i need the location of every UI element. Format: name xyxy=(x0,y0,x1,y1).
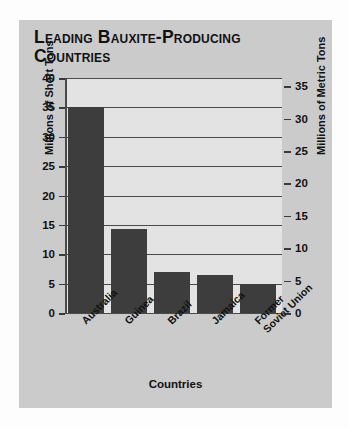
y-axis-right-tick-label: 20 xyxy=(295,177,308,189)
y-axis-right-tick-label: 15 xyxy=(295,210,308,222)
y-axis-right-tick-label: 35 xyxy=(295,80,308,92)
y-axis-right-tick-label: 10 xyxy=(295,242,308,254)
chart-title: Leading Bauxite-Producing Countries xyxy=(34,28,314,66)
y-axis-right-tick-label: 30 xyxy=(295,113,308,125)
y-axis-right-tick xyxy=(284,216,291,218)
y-axis-left-tick xyxy=(59,196,65,198)
y-axis-right-title: Millions of Metric Tons xyxy=(315,37,327,155)
y-axis-left-tick xyxy=(59,313,65,315)
chart-figure: Leading Bauxite-Producing Countries 0510… xyxy=(19,20,332,408)
y-axis-left-tick xyxy=(59,225,65,227)
x-axis-title: Countries xyxy=(19,378,332,390)
y-axis-right-tick xyxy=(284,151,291,153)
y-axis-left-tick xyxy=(59,254,65,256)
y-axis-right-tick xyxy=(284,248,291,250)
y-axis-left-tick xyxy=(59,284,65,286)
bar xyxy=(68,107,104,313)
y-axis-left-tick-label: 10 xyxy=(42,248,55,260)
y-axis-left-tick xyxy=(59,107,65,109)
y-axis-left-title: Millions of Short Tons xyxy=(43,40,55,155)
y-axis-left-tick-label: 25 xyxy=(42,160,55,172)
y-axis-left-tick-label: 0 xyxy=(49,307,55,319)
plot-area: 0510152025303540 05101520253035 Australi… xyxy=(66,78,282,313)
y-axis-left-tick-label: 20 xyxy=(42,190,55,202)
y-axis-left-tick-label: 5 xyxy=(49,278,55,290)
y-axis-right-tick xyxy=(284,119,291,121)
y-axis-right-tick xyxy=(284,86,291,88)
y-axis-right-tick-label: 25 xyxy=(295,145,308,157)
y-axis-left-tick-label: 15 xyxy=(42,219,55,231)
y-axis-right-tick xyxy=(284,183,291,185)
y-axis-left-tick xyxy=(59,137,65,139)
y-axis-left-tick xyxy=(59,78,65,80)
y-axis-right-tick-label: 0 xyxy=(295,307,301,319)
gridline xyxy=(66,78,282,79)
y-axis-left-tick xyxy=(59,166,65,168)
